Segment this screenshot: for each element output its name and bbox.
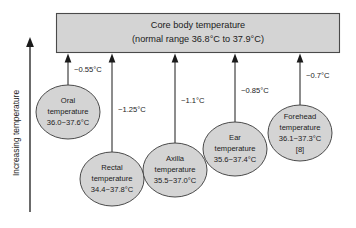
node-axilla-line3: 35.5~37.0°C xyxy=(154,176,197,185)
axis-arrowhead-icon xyxy=(26,37,34,47)
gap-label-oral: ~0.55°C xyxy=(74,65,102,74)
node-axilla-line1: Axilla xyxy=(166,154,185,163)
arrowhead-icon-rectal xyxy=(109,54,116,63)
node-forehead-line2: temperature xyxy=(280,123,321,132)
core-box-line2: (normal range 36.8°C to 37.9°C) xyxy=(132,34,264,44)
node-axilla-line2: temperature xyxy=(155,165,196,174)
connector-forehead: ~0.7°C xyxy=(297,54,330,107)
arrowhead-icon-axilla xyxy=(172,54,179,63)
core-temperature-box: Core body temperature (normal range 36.8… xyxy=(57,14,340,53)
gap-label-rectal: ~1.25°C xyxy=(118,105,146,114)
arrowhead-icon-ear xyxy=(232,54,239,63)
node-rectal-line2: temperature xyxy=(92,174,133,183)
temperature-diagram: Increasing temperature Core body tempera… xyxy=(0,0,356,228)
connector-oral: ~0.55°C xyxy=(65,54,103,86)
arrowhead-icon-forehead xyxy=(297,54,304,63)
node-ear-line2: temperature xyxy=(215,144,256,153)
node-axilla[interactable]: Axilla temperature 35.5~37.0°C xyxy=(143,143,207,197)
arrowhead-icon-oral xyxy=(65,54,72,63)
node-forehead-citation: [8] xyxy=(296,145,304,154)
gap-label-ear: ~0.85°C xyxy=(241,86,269,95)
node-ear-line3: 35.6~37.4°C xyxy=(214,155,257,164)
core-box-line1: Core body temperature xyxy=(151,20,245,30)
gap-label-forehead: ~0.7°C xyxy=(306,71,330,80)
node-ear-line1: Ear xyxy=(229,133,241,142)
connector-rectal: ~1.25°C xyxy=(109,54,147,153)
node-forehead-line3: 36.1~37.3°C xyxy=(279,134,322,143)
node-rectal-line1: Rectal xyxy=(101,163,123,172)
node-oral-line2: temperature xyxy=(48,107,89,116)
figure-canvas: Increasing temperature Core body tempera… xyxy=(0,0,356,228)
node-forehead[interactable]: Forehead temperature 36.1~37.3°C [8] xyxy=(268,105,332,161)
node-forehead-line1: Forehead xyxy=(284,112,317,121)
core-box-shape xyxy=(57,14,340,53)
node-rectal-line3: 34.4~37.8°C xyxy=(91,185,134,194)
node-oral[interactable]: Oral temperature 36.0~37.6°C xyxy=(36,85,100,139)
node-ear[interactable]: Ear temperature 35.6~37.4°C xyxy=(203,122,267,176)
gap-label-axilla: ~1.1°C xyxy=(181,96,205,105)
node-oral-line1: Oral xyxy=(61,96,76,105)
node-rectal[interactable]: Rectal temperature 34.4~37.8°C xyxy=(80,152,144,206)
increasing-temperature-axis: Increasing temperature xyxy=(11,37,34,212)
connector-axilla: ~1.1°C xyxy=(172,54,205,144)
node-oral-line3: 36.0~37.6°C xyxy=(47,118,90,127)
connector-ear: ~0.85°C xyxy=(232,54,270,123)
axis-label: Increasing temperature xyxy=(11,90,21,176)
